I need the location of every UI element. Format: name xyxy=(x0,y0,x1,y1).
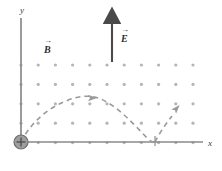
b-field-dot xyxy=(88,102,91,105)
b-field-dot xyxy=(37,102,40,105)
b-field-dot xyxy=(88,83,91,86)
b-field-dot xyxy=(105,83,108,86)
b-field-dot xyxy=(54,102,57,105)
trajectory-arrowhead-apex xyxy=(88,95,97,101)
b-field-dot xyxy=(71,102,74,105)
b-field-dot xyxy=(37,83,40,86)
b-field-dot xyxy=(140,102,143,105)
b-field-dot xyxy=(54,83,57,86)
physics-diagram-container: y x → E → B xyxy=(0,0,222,171)
b-field-dot xyxy=(174,102,177,105)
b-field-dot xyxy=(37,63,40,66)
magnetic-field-dot-array xyxy=(19,63,194,144)
b-field-dot xyxy=(54,63,57,66)
b-field-dot xyxy=(157,102,160,105)
b-field-dot xyxy=(105,122,108,125)
b-field-dot xyxy=(191,63,194,66)
b-field-dot xyxy=(105,102,108,105)
b-field-dot xyxy=(123,102,126,105)
b-field-dot xyxy=(157,122,160,125)
b-field-dot xyxy=(174,122,177,125)
diagram-canvas: y x → E → B xyxy=(0,0,222,171)
e-field-label: E xyxy=(120,33,128,44)
b-field-dot xyxy=(174,63,177,66)
b-field-dot xyxy=(191,102,194,105)
y-axis-label: y xyxy=(19,5,24,15)
b-field-dot xyxy=(191,122,194,125)
b-field-dot xyxy=(140,122,143,125)
b-field-dot xyxy=(157,83,160,86)
x-axis-label: x xyxy=(207,138,212,148)
trajectory-first-arch xyxy=(21,96,155,142)
b-field-dot xyxy=(71,83,74,86)
b-field-dot xyxy=(123,122,126,125)
b-field-dot xyxy=(123,83,126,86)
b-field-dot xyxy=(157,63,160,66)
b-field-dot xyxy=(88,63,91,66)
b-field-dot xyxy=(37,122,40,125)
trajectory-direction-arrowheads xyxy=(88,95,182,114)
b-field-dot xyxy=(140,83,143,86)
b-field-dot xyxy=(174,83,177,86)
b-field-dot xyxy=(54,122,57,125)
b-field-dot xyxy=(123,63,126,66)
trajectory-second-arch xyxy=(155,116,172,142)
b-field-dot xyxy=(71,122,74,125)
b-field-dot xyxy=(71,63,74,66)
b-field-dot xyxy=(88,122,91,125)
b-field-dot xyxy=(105,63,108,66)
b-field-label: B xyxy=(43,44,51,55)
b-field-dot xyxy=(191,83,194,86)
b-field-dot xyxy=(140,63,143,66)
